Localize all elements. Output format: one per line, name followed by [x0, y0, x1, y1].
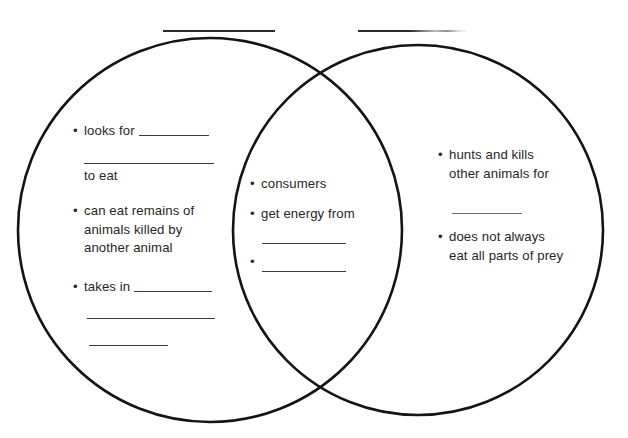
right-list-item-2-line2: eat all parts of prey: [438, 247, 608, 266]
bullet-glyph: •: [250, 175, 261, 194]
bullet-glyph: •: [250, 205, 261, 224]
left-circle-content: • looks for: [73, 122, 233, 141]
bullet-glyph: •: [73, 202, 84, 221]
right-circle-title-blank[interactable]: [358, 30, 466, 32]
bullet-glyph: •: [73, 278, 84, 297]
right-list-item-2-line1: does not always: [438, 228, 608, 247]
center-list-item-2: • get energy from: [250, 205, 355, 224]
center-overlap-content: • consumers • get energy from: [250, 175, 355, 223]
right-circle-content: • hunts and kills other animals for: [438, 146, 598, 183]
center-list-item-2-text: get energy from: [250, 205, 355, 224]
bullet-glyph: •: [438, 228, 449, 247]
left-blank-line-1[interactable]: [84, 163, 214, 164]
center-blank-line-2[interactable]: [262, 271, 346, 272]
left-circle-content-continued: to eat: [73, 167, 233, 186]
left-list-item-1-text: looks for: [84, 123, 135, 138]
left-item-3-inline-blank[interactable]: [134, 279, 212, 292]
left-circle-title-blank[interactable]: [163, 30, 275, 32]
left-list-item-2: • can eat remains of animals killed by a…: [73, 202, 243, 258]
center-blank-line-1[interactable]: [262, 243, 346, 244]
center-list-item-1-text: consumers: [250, 175, 355, 194]
worksheet-text-layer: • looks for to eat • can eat remains of …: [0, 0, 628, 438]
left-list-item-2-line1: can eat remains of: [73, 202, 243, 221]
right-list-item-1: • hunts and kills: [438, 146, 598, 165]
left-blank-line-3[interactable]: [89, 345, 168, 346]
left-list-item-2-line3: another animal: [73, 239, 243, 258]
left-list-item-1-continuation: to eat: [73, 167, 233, 186]
right-list-item-1-line1: hunts and kills: [438, 146, 598, 165]
right-list-item-2: • does not always eat all parts of prey: [438, 228, 608, 265]
left-list-item-1: • looks for: [73, 122, 233, 141]
bullet-glyph: •: [250, 253, 261, 272]
left-circle-title-value: [0, 0, 1, 1]
left-list-item-2-line2: animals killed by: [73, 221, 243, 240]
worksheet-page: • looks for to eat • can eat remains of …: [0, 0, 628, 438]
left-blank-line-2[interactable]: [87, 318, 215, 319]
center-list-item-1: • consumers: [250, 175, 355, 194]
bullet-glyph: •: [73, 122, 84, 141]
left-item-1-inline-blank[interactable]: [139, 123, 209, 136]
left-list-item-3-text: takes in: [84, 279, 130, 294]
bullet-glyph: •: [438, 146, 449, 165]
right-list-item-1-line2: other animals for: [438, 165, 598, 184]
left-list-item-3: • takes in: [73, 278, 243, 297]
right-circle-title-value: [0, 0, 1, 1]
right-blank-line-1[interactable]: [452, 213, 522, 214]
